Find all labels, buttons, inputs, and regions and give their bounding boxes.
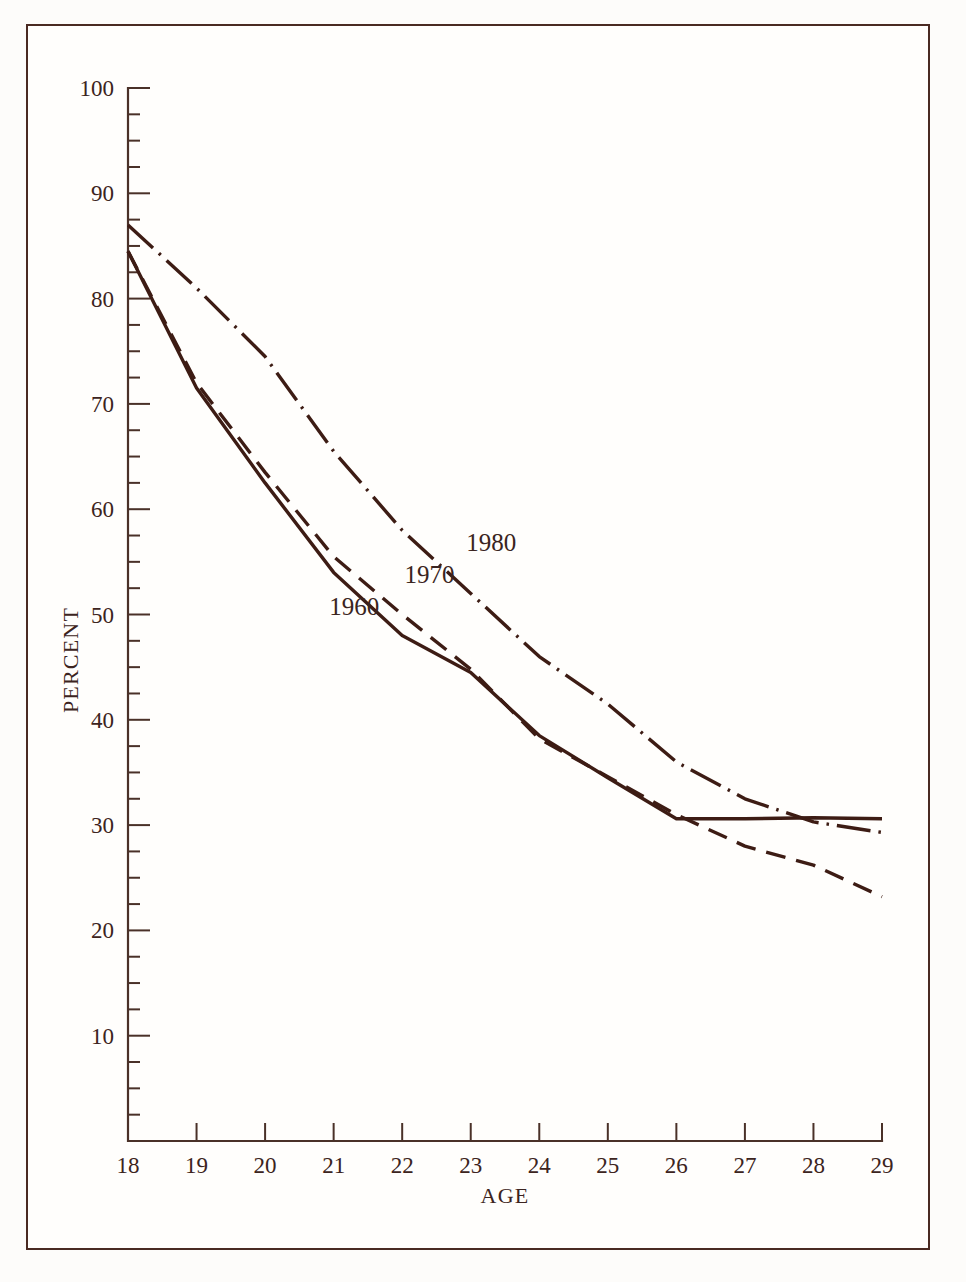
x-tick-label: 21 xyxy=(322,1153,345,1178)
x-tick-label: 26 xyxy=(665,1153,688,1178)
y-tick-label: 60 xyxy=(91,497,114,522)
x-tick-label: 22 xyxy=(391,1153,414,1178)
x-tick-label: 19 xyxy=(185,1153,208,1178)
y-tick-label: 50 xyxy=(91,603,114,628)
axis-spine xyxy=(128,88,882,1141)
x-tick-label: 27 xyxy=(733,1153,756,1178)
series-annotation-1960: 1960 xyxy=(329,593,379,620)
y-tick-label: 10 xyxy=(91,1024,114,1049)
line-chart: 1020304050607080901001819202122232425262… xyxy=(0,0,966,1282)
y-tick-label: 20 xyxy=(91,918,114,943)
x-tick-label: 20 xyxy=(254,1153,277,1178)
series-annotation-1980: 1980 xyxy=(466,529,516,556)
y-tick-label: 100 xyxy=(80,76,115,101)
y-tick-label: 90 xyxy=(91,181,114,206)
y-tick-label: 40 xyxy=(91,708,114,733)
axes xyxy=(128,88,882,1141)
x-tick-label: 28 xyxy=(802,1153,825,1178)
y-axis-title: PERCENT xyxy=(58,607,83,713)
tick-labels: 1020304050607080901001819202122232425262… xyxy=(80,76,894,1178)
series-annotation-1970: 1970 xyxy=(405,561,455,588)
x-tick-label: 23 xyxy=(459,1153,482,1178)
y-tick-label: 80 xyxy=(91,287,114,312)
x-tick-label: 25 xyxy=(596,1153,619,1178)
x-tick-label: 29 xyxy=(871,1153,894,1178)
y-tick-label: 70 xyxy=(91,392,114,417)
y-tick-label: 30 xyxy=(91,813,114,838)
x-tick-label: 18 xyxy=(117,1153,140,1178)
series-line-1970 xyxy=(128,251,882,896)
data-series-group xyxy=(128,225,882,897)
figure-page: 1020304050607080901001819202122232425262… xyxy=(0,0,966,1282)
series-annotations: 196019701980 xyxy=(329,529,516,619)
x-axis-title: AGE xyxy=(481,1183,530,1208)
x-tick-label: 24 xyxy=(528,1153,552,1178)
